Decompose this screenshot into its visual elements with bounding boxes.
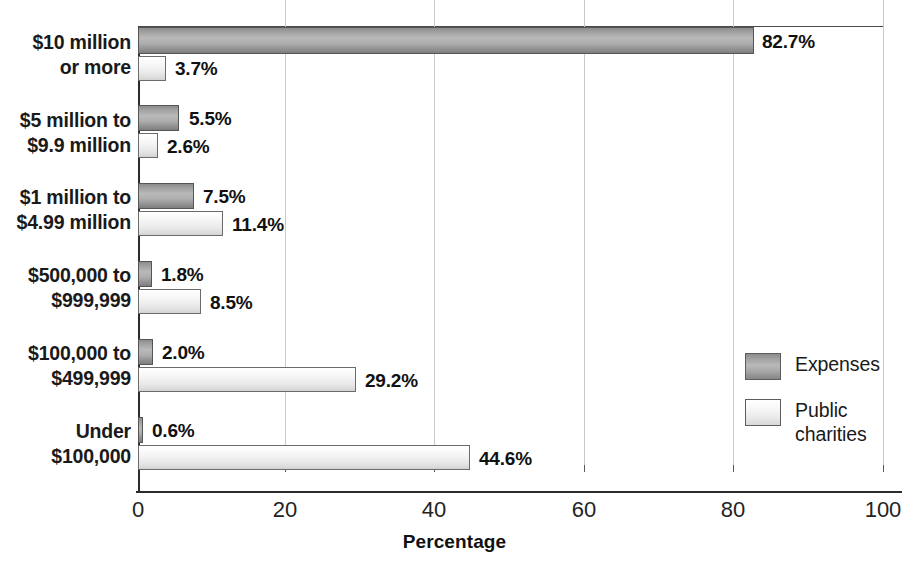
tick-60: [584, 465, 585, 472]
xtick-label-80: 80: [721, 497, 745, 523]
bar-value-charities-2: 11.4%: [232, 214, 284, 236]
legend-swatch-expenses-icon: [745, 353, 781, 380]
bar-value-expenses-5: 0.6%: [152, 420, 195, 442]
bar-value-expenses-4: 2.0%: [162, 342, 205, 364]
category-label-2: $1 million to $4.99 million: [17, 185, 131, 235]
bar-value-charities-1: 2.6%: [167, 136, 210, 158]
bar-value-charities-4: 29.2%: [365, 370, 418, 392]
legend-item-expenses: Expenses: [745, 352, 880, 380]
bar-value-expenses-2: 7.5%: [203, 186, 246, 208]
xtick-label-100: 100: [865, 497, 902, 523]
bar-value-charities-0: 3.7%: [175, 58, 218, 80]
bar-charities-1: [138, 133, 158, 158]
bar-charities-0: [138, 56, 166, 81]
tick-80: [733, 465, 734, 472]
bar-value-charities-3: 8.5%: [210, 292, 253, 314]
category-label-4: $100,000 to $499,999: [28, 341, 131, 391]
xtick-label-0: 0: [132, 497, 144, 523]
gridline-40: [434, 0, 435, 465]
bar-expenses-4: [138, 339, 153, 365]
gridline-100: [883, 0, 884, 465]
bar-value-expenses-0: 82.7%: [762, 31, 815, 53]
gridline-20: [285, 0, 286, 465]
tick-100: [883, 465, 884, 472]
legend-label-public-charities: Public charities: [795, 398, 867, 446]
bar-expenses-2: [138, 183, 194, 209]
bar-expenses-5: [138, 417, 143, 443]
bar-expenses-3: [138, 261, 152, 287]
category-label-1: $5 million to $9.9 million: [20, 108, 131, 158]
legend-swatch-public-charities-icon: [745, 399, 781, 426]
bar-value-expenses-3: 1.8%: [161, 264, 204, 286]
bar-charities-4: [138, 367, 356, 392]
legend-label-expenses: Expenses: [795, 352, 880, 376]
x-axis-title: Percentage: [0, 531, 909, 553]
x-axis-line: [136, 491, 902, 493]
bar-value-expenses-1: 5.5%: [189, 108, 232, 130]
category-label-0: $10 million or more: [32, 30, 131, 80]
category-label-3: $500,000 to $999,999: [28, 263, 131, 313]
bar-chart: $10 million or more $5 million to $9.9 m…: [0, 0, 909, 566]
bar-expenses-0: [138, 27, 754, 54]
bar-expenses-1: [138, 105, 179, 131]
gridline-80: [733, 0, 734, 465]
category-label-5: Under $100,000: [51, 419, 131, 469]
bar-value-charities-5: 44.6%: [479, 448, 532, 470]
bar-charities-5: [138, 445, 470, 470]
bar-charities-3: [138, 289, 201, 314]
xtick-label-20: 20: [273, 497, 297, 523]
xtick-label-60: 60: [572, 497, 596, 523]
gridline-60: [584, 0, 585, 465]
xtick-label-40: 40: [422, 497, 446, 523]
bar-charities-2: [138, 211, 223, 236]
legend-item-public-charities: Public charities: [745, 398, 867, 446]
